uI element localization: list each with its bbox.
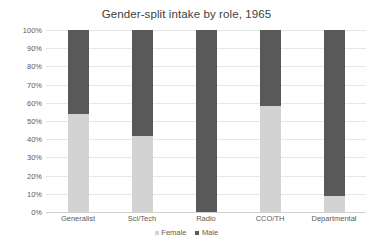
bar-segment-male[interactable] bbox=[68, 30, 89, 114]
bar-group[interactable] bbox=[68, 30, 89, 212]
bar-segment-female[interactable] bbox=[68, 114, 89, 212]
x-axis-tick-label: CCO/TH bbox=[256, 214, 285, 223]
bar-segment-male[interactable] bbox=[324, 30, 345, 196]
bar-group[interactable] bbox=[260, 30, 281, 212]
x-axis-tick-label: Radio bbox=[196, 214, 216, 223]
legend-label: Female bbox=[161, 228, 186, 237]
bar-group[interactable] bbox=[324, 30, 345, 212]
legend-item-male[interactable]: Male bbox=[195, 228, 218, 237]
x-axis-tick-label: Generalist bbox=[61, 214, 95, 223]
bar-segment-female[interactable] bbox=[324, 196, 345, 212]
y-axis: 0%10%20%30%40%50%60%70%80%90%100% bbox=[0, 30, 42, 212]
bar-segment-female[interactable] bbox=[260, 106, 281, 212]
y-axis-tick-label: 70% bbox=[0, 80, 42, 89]
y-axis-tick-label: 100% bbox=[0, 26, 42, 35]
bar-stack bbox=[324, 30, 345, 212]
bar-stack bbox=[196, 30, 217, 212]
y-axis-tick-label: 0% bbox=[0, 208, 42, 217]
chart-title: Gender-split intake by role, 1965 bbox=[0, 8, 373, 20]
y-axis-tick-label: 80% bbox=[0, 62, 42, 71]
bar-segment-female[interactable] bbox=[132, 136, 153, 212]
legend-swatch-icon bbox=[155, 231, 159, 235]
bar-segment-male[interactable] bbox=[132, 30, 153, 136]
plot-area bbox=[46, 30, 366, 212]
bar-group[interactable] bbox=[132, 30, 153, 212]
y-axis-tick-label: 30% bbox=[0, 153, 42, 162]
y-axis-tick-label: 50% bbox=[0, 117, 42, 126]
chart-container: Gender-split intake by role, 1965 0%10%2… bbox=[0, 0, 373, 238]
legend-item-female[interactable]: Female bbox=[155, 228, 187, 237]
y-axis-tick-label: 90% bbox=[0, 44, 42, 53]
legend-swatch-icon bbox=[195, 231, 199, 235]
x-axis-tick-label: Departmental bbox=[311, 214, 356, 223]
y-axis-tick-label: 60% bbox=[0, 98, 42, 107]
x-axis: GeneralistSci/TechRadioCCO/THDepartmenta… bbox=[46, 214, 366, 228]
chart-legend: FemaleMale bbox=[0, 228, 373, 237]
bar-stack bbox=[132, 30, 153, 212]
y-axis-tick-label: 10% bbox=[0, 189, 42, 198]
bar-segment-male[interactable] bbox=[260, 30, 281, 106]
bar-stack bbox=[68, 30, 89, 212]
bar-segment-male[interactable] bbox=[196, 30, 217, 212]
y-axis-tick-label: 20% bbox=[0, 171, 42, 180]
gridline bbox=[46, 212, 366, 213]
legend-label: Male bbox=[202, 228, 218, 237]
y-axis-tick-label: 40% bbox=[0, 135, 42, 144]
bar-group[interactable] bbox=[196, 30, 217, 212]
x-axis-tick-label: Sci/Tech bbox=[128, 214, 156, 223]
bar-stack bbox=[260, 30, 281, 212]
